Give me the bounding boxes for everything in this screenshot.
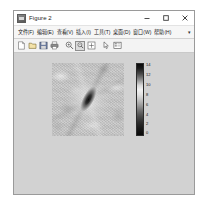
menu-item-desktop[interactable]: 桌面(D) (112, 29, 132, 34)
menu-bar: 文件(F) 编辑(E) 查看(V) 插入(I) 工具(T) 桌面(D) 窗口(W… (14, 26, 194, 39)
open-file-icon[interactable] (27, 41, 37, 51)
pan-icon[interactable] (86, 41, 96, 51)
colorbar-tick-label: 12 (146, 73, 150, 77)
menu-item-tools[interactable]: 工具(T) (92, 29, 111, 34)
figure-icon (17, 14, 26, 23)
image-axes[interactable] (52, 63, 124, 136)
minimize-button[interactable] (137, 11, 156, 25)
new-figure-icon[interactable] (16, 41, 26, 51)
figure-canvas[interactable]: 14 12 10 8 6 4 2 0 (14, 53, 194, 194)
figure-window: Figure 2 文件(F) 编辑(E) 查看(V (13, 10, 195, 195)
menu-item-file[interactable]: 文件(F) (16, 29, 35, 34)
colorbar-tick-label: 10 (146, 83, 150, 87)
menu-item-edit[interactable]: 编辑(E) (35, 29, 55, 34)
menu-item-help[interactable]: 帮助(H) (153, 29, 173, 34)
screenshot-root: Figure 2 文件(F) 编辑(E) 查看(V (0, 0, 206, 212)
menu-item-insert[interactable]: 插入(I) (75, 29, 93, 34)
window-title: Figure 2 (29, 15, 137, 21)
close-button[interactable] (175, 11, 194, 25)
colorbar-tick-label: 4 (146, 113, 148, 117)
colorbar-tick-label: 0 (146, 131, 148, 135)
title-bar: Figure 2 (14, 11, 194, 26)
save-figure-icon[interactable] (38, 41, 48, 51)
page-caption (38, 203, 188, 212)
maximize-button[interactable] (156, 11, 175, 25)
chevron-down-icon[interactable]: ▾ (188, 30, 191, 35)
menu-item-window[interactable]: 窗口(W) (132, 29, 153, 34)
zoom-out-icon[interactable] (75, 41, 85, 51)
colorbar[interactable]: 14 12 10 8 6 4 2 0 (136, 63, 158, 136)
data-cursor-icon[interactable] (101, 41, 111, 51)
toolbar (14, 39, 194, 53)
menu-item-view[interactable]: 查看(V) (55, 29, 75, 34)
colorbar-tick-label: 8 (146, 93, 148, 97)
colorbar-tick-label: 6 (146, 103, 148, 107)
print-figure-icon[interactable] (49, 41, 59, 51)
insert-legend-icon[interactable] (112, 41, 122, 51)
colorbar-tick-label: 2 (146, 122, 148, 126)
colorbar-tick-label: 14 (146, 63, 150, 67)
colorbar-gradient (136, 63, 144, 136)
zoom-in-icon[interactable] (64, 41, 74, 51)
